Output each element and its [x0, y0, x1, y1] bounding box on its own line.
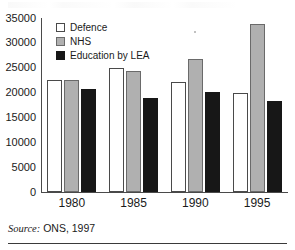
bar-nhs-1985 [126, 71, 141, 192]
legend-label: Education by LEA [70, 50, 150, 61]
x-tick-label: 1985 [103, 196, 165, 210]
bar-nhs-1980 [64, 80, 79, 192]
x-axis-line [41, 192, 288, 193]
y-axis-line [41, 18, 42, 192]
source-value: ONS, 1997 [40, 222, 95, 234]
legend-swatch-education [56, 51, 65, 60]
y-axis-tick-labels: 35000300002500020000150001000050000 [0, 18, 36, 192]
scan-artifact [8, 2, 238, 8]
legend-label: NHS [70, 36, 91, 47]
bar-education-1985 [143, 98, 158, 192]
y-tick-label: 30000 [0, 37, 36, 48]
bar-nhs-1990 [188, 59, 203, 192]
x-tick-label: 1980 [41, 196, 103, 210]
legend-item: Defence [56, 21, 176, 34]
source-label: Source: [8, 223, 40, 234]
legend: DefenceNHSEducation by LEA [56, 21, 176, 63]
legend-item: Education by LEA [56, 49, 176, 62]
bar-nhs-1995 [250, 24, 265, 192]
source-note: Source: ONS, 1997 [8, 222, 95, 235]
y-tick-label: 0 [0, 187, 36, 198]
bar-defence-1980 [47, 80, 62, 192]
bottom-divider [8, 243, 287, 244]
x-tick-label: 1990 [165, 196, 227, 210]
bar-education-1990 [205, 92, 220, 192]
bar-education-1980 [81, 89, 96, 192]
bar-defence-1990 [171, 82, 186, 192]
y-tick-label: 10000 [0, 137, 36, 148]
figure: 35000300002500020000150001000050000 1980… [0, 0, 295, 250]
y-tick-label: 5000 [0, 162, 36, 173]
x-tick-label: 1995 [226, 196, 288, 210]
bar-education-1995 [267, 101, 282, 192]
y-tick-label: 25000 [0, 62, 36, 73]
legend-swatch-nhs [56, 37, 65, 46]
y-tick-label: 35000 [0, 13, 36, 24]
bar-defence-1995 [233, 93, 248, 192]
legend-label: Defence [70, 22, 107, 33]
bar-defence-1985 [109, 68, 124, 192]
y-tick-label: 15000 [0, 112, 36, 123]
x-axis-tick-labels: 1980198519901995 [41, 196, 288, 212]
y-tick-label: 20000 [0, 87, 36, 98]
legend-item: NHS [56, 35, 176, 48]
scan-speck [194, 31, 196, 33]
legend-swatch-defence [56, 23, 65, 32]
